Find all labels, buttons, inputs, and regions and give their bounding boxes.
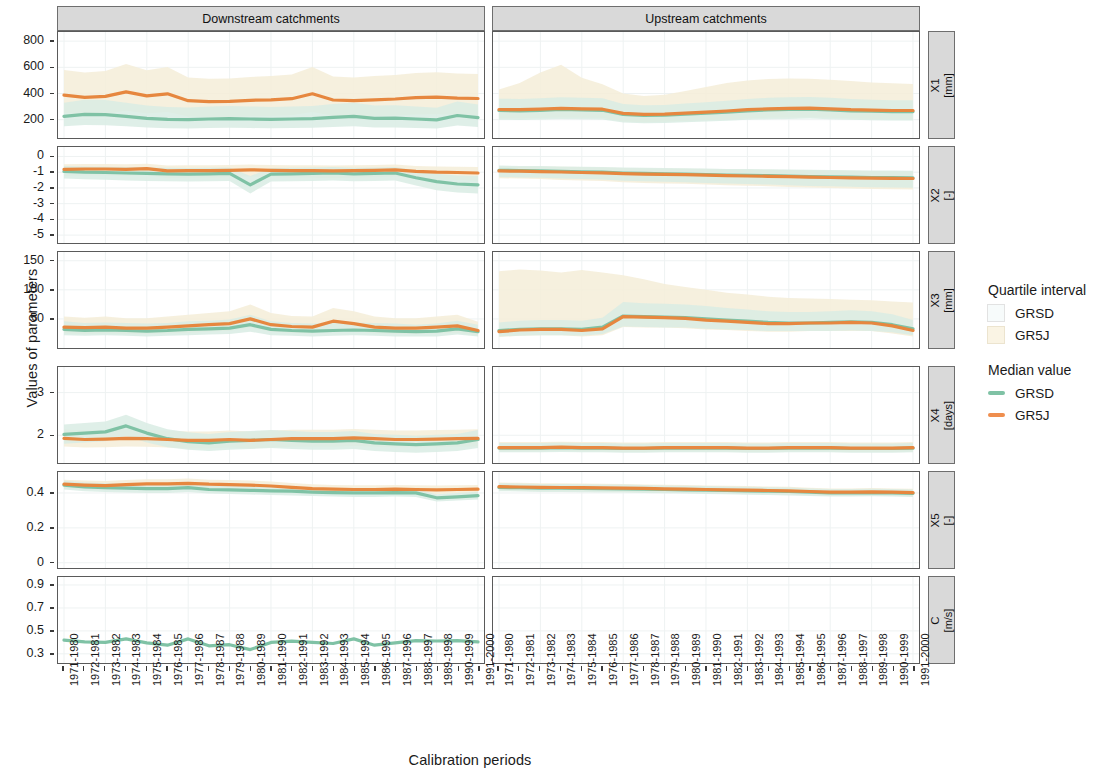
x-tick-mark <box>726 666 727 671</box>
y-tick-mark <box>50 171 54 172</box>
x-tick-mark <box>601 666 602 671</box>
x-tick-label-downstream-10: 1981-1990 <box>276 672 288 686</box>
legend-label-quartile-grsd: GRSD <box>1015 306 1054 321</box>
legend-item-median-gr5j[interactable]: GR5J <box>986 404 1101 426</box>
row-strip-x2: X2[-] <box>928 146 955 244</box>
x-tick-mark <box>872 666 873 671</box>
x-tick-mark <box>789 666 790 671</box>
x-tick-mark <box>270 666 271 671</box>
row-strip-label-c: C[m/s] <box>929 608 954 632</box>
x-tick-label-upstream-18: 1989-1998 <box>877 672 889 686</box>
x-tick-mark <box>830 666 831 671</box>
legend-item-quartile-gr5j[interactable]: GR5J <box>986 324 1101 346</box>
x-tick-label-downstream-9: 1980-1989 <box>255 672 267 686</box>
y-tick-mark <box>50 318 54 319</box>
figure-root: Values of parameters Calibration periods… <box>0 0 1101 774</box>
x-tick-mark <box>705 666 706 671</box>
x-tick-label-upstream-15: 1986-1995 <box>815 672 827 686</box>
y-tick-mark <box>50 435 54 436</box>
y-tick-mark <box>50 260 54 261</box>
panel-x1-upstream <box>492 31 920 139</box>
x-tick-mark <box>146 666 147 671</box>
x-tick-label-downstream-0: 1971-1980 <box>68 672 80 686</box>
x-tick-label-upstream-19: 1990-1999 <box>898 672 910 686</box>
x-tick-mark <box>395 666 396 671</box>
panel-x4-upstream <box>492 366 920 464</box>
row-strip-label-x1: X1[mm] <box>929 73 954 97</box>
y-tick-mark <box>50 67 54 68</box>
x-tick-label-upstream-6: 1977-1986 <box>628 672 640 686</box>
x-tick-mark <box>643 666 644 671</box>
x-tick-label-upstream-14: 1985-1994 <box>794 672 806 686</box>
x-tick-label-upstream-7: 1978-1987 <box>649 672 661 686</box>
y-tick-mark <box>50 584 54 585</box>
x-tick-mark <box>312 666 313 671</box>
x-tick-mark <box>747 666 748 671</box>
x-tick-label-downstream-12: 1983-1992 <box>318 672 330 686</box>
panel-x2-downstream <box>57 146 485 244</box>
y-tick-x5-0_4: 0.4 <box>0 485 44 499</box>
x-tick-mark <box>333 666 334 671</box>
x-axis-title: Calibration periods <box>0 752 940 768</box>
x-tick-mark <box>664 666 665 671</box>
y-tick-mark <box>50 234 54 235</box>
x-tick-label-downstream-13: 1984-1993 <box>338 672 350 686</box>
x-tick-label-upstream-16: 1987-1996 <box>836 672 848 686</box>
row-strip-label-x3: X3[mm] <box>929 288 954 312</box>
y-tick-c-0_5: 0.5 <box>0 623 44 637</box>
x-tick-label-upstream-9: 1980-1989 <box>690 672 702 686</box>
x-tick-label-downstream-20: 1991-2000 <box>484 672 496 686</box>
x-tick-label-downstream-6: 1977-1986 <box>193 672 205 686</box>
x-tick-mark <box>539 666 540 671</box>
column-strip-upstream: Upstream catchments <box>492 6 920 31</box>
x-tick-label-upstream-3: 1974-1983 <box>565 672 577 686</box>
x-tick-mark <box>913 666 914 671</box>
y-tick-x4-3: 3 <box>0 385 44 399</box>
row-strip-label-x5: X5[-] <box>929 513 954 527</box>
y-tick-x2-0: 0 <box>0 148 44 162</box>
y-tick-x5-0_2: 0.2 <box>0 520 44 534</box>
quartile-gr5j-swatch-icon <box>986 325 1006 345</box>
legend-item-median-grsd[interactable]: GRSD <box>986 382 1101 404</box>
y-tick-x2-neg5: -5 <box>0 227 44 241</box>
x-tick-mark <box>478 666 479 671</box>
x-tick-mark <box>62 666 63 671</box>
y-tick-c-0_9: 0.9 <box>0 577 44 591</box>
x-tick-label-downstream-4: 1975-1984 <box>151 672 163 686</box>
x-tick-mark <box>581 666 582 671</box>
y-tick-c-0_7: 0.7 <box>0 600 44 614</box>
legend: Quartile interval GRSD GR5J Median value <box>986 282 1101 442</box>
x-tick-label-downstream-15: 1986-1995 <box>380 672 392 686</box>
panel-x5-downstream <box>57 471 485 569</box>
y-tick-x3-150: 150 <box>0 253 44 267</box>
median-grsd-line-icon <box>986 383 1006 403</box>
legend-label-quartile-gr5j: GR5J <box>1015 328 1050 343</box>
y-tick-x2-neg3: -3 <box>0 196 44 210</box>
x-tick-mark <box>809 666 810 671</box>
x-tick-label-upstream-10: 1981-1990 <box>711 672 723 686</box>
y-tick-x2-neg1: -1 <box>0 164 44 178</box>
y-tick-mark <box>50 93 54 94</box>
x-tick-label-upstream-0: 1971-1980 <box>503 672 515 686</box>
x-tick-mark <box>208 666 209 671</box>
x-tick-mark <box>416 666 417 671</box>
legend-item-quartile-grsd[interactable]: GRSD <box>986 302 1101 324</box>
y-tick-x2-neg2: -2 <box>0 180 44 194</box>
y-tick-mark <box>50 392 54 393</box>
x-tick-label-upstream-1: 1972-1981 <box>524 672 536 686</box>
legend-group-median: Median value GRSD GR5J <box>986 362 1101 426</box>
x-tick-mark <box>250 666 251 671</box>
panel-x3-upstream <box>492 251 920 349</box>
x-tick-label-upstream-17: 1988-1997 <box>857 672 869 686</box>
y-tick-x3-100: 100 <box>0 282 44 296</box>
panel-x5-upstream <box>492 471 920 569</box>
x-tick-label-downstream-8: 1979-1988 <box>234 672 246 686</box>
x-tick-label-downstream-11: 1982-1991 <box>297 672 309 686</box>
y-tick-mark <box>50 630 54 631</box>
x-tick-mark <box>851 666 852 671</box>
y-tick-x3-50: 50 <box>0 311 44 325</box>
legend-label-median-gr5j: GR5J <box>1015 408 1050 423</box>
y-tick-mark <box>50 156 54 157</box>
y-tick-mark <box>50 607 54 608</box>
legend-title-median: Median value <box>988 362 1101 378</box>
